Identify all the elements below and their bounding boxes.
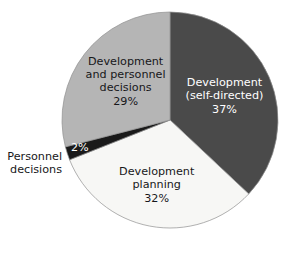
pie-slice-name-line-development-planning-1: planning bbox=[132, 178, 181, 191]
pie-slice-name-line-personnel-decisions-0: Personnel bbox=[7, 150, 62, 163]
pie-slice-name-line-development-and-personnel-decisions-1: and personnel bbox=[86, 68, 166, 81]
pie-slice-percent-development-and-personnel-decisions: 29% bbox=[113, 95, 138, 108]
pie-slice-percent-development-self-directed: 37% bbox=[212, 103, 237, 116]
pie-chart-svg: Development(self-directed)37%Development… bbox=[0, 0, 292, 253]
pie-slice-name-line-personnel-decisions-1: decisions bbox=[10, 163, 62, 176]
pie-slice-percent-personnel-decisions: 2% bbox=[71, 141, 89, 154]
pie-slice-name-line-development-self-directed-0: Development bbox=[187, 76, 263, 89]
pie-slice-percent-development-planning: 32% bbox=[144, 192, 169, 205]
pie-slice-label-personnel-decisions: Personneldecisions bbox=[7, 150, 62, 176]
pie-outside-labels-group: Personneldecisions bbox=[7, 150, 62, 176]
pie-slice-name-line-development-planning-0: Development bbox=[119, 165, 195, 178]
pie-slice-name-line-development-self-directed-1: (self-directed) bbox=[186, 89, 264, 102]
pie-chart-figure: Development(self-directed)37%Development… bbox=[0, 0, 292, 253]
pie-slices-group bbox=[62, 12, 278, 228]
pie-slice-name-line-development-and-personnel-decisions-0: Development bbox=[88, 55, 164, 68]
pie-slice-name-line-development-and-personnel-decisions-2: decisions bbox=[100, 81, 152, 94]
